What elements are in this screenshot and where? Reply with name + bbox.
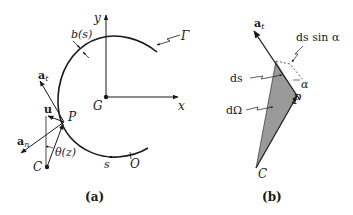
label-an: an bbox=[17, 135, 29, 149]
label-width: b(s) bbox=[71, 28, 92, 41]
label-C-b: C bbox=[258, 167, 267, 181]
label-x: x bbox=[178, 99, 185, 113]
label-at-b: at bbox=[254, 17, 265, 31]
theta-arc bbox=[46, 147, 53, 148]
label-G: G bbox=[93, 99, 103, 113]
label-s: s bbox=[104, 158, 110, 171]
label-theta: θ(z) bbox=[55, 146, 76, 159]
label-alpha: α bbox=[301, 78, 309, 91]
gamma-leader bbox=[157, 35, 180, 45]
panel-b: at ds sin α ds dΩ α P C (b) bbox=[226, 17, 340, 204]
label-P-b: P bbox=[292, 93, 302, 107]
label-P: P bbox=[67, 110, 77, 124]
leader-ds-sin bbox=[292, 46, 303, 62]
caption-b: (b) bbox=[262, 190, 282, 204]
label-C: C bbox=[33, 160, 42, 174]
label-gamma: Γ bbox=[180, 29, 190, 43]
label-ds-sin-alpha: ds sin α bbox=[296, 31, 340, 44]
figure-canvas: y x G Γ b(s) at u an P C θ(z) s O (a) at bbox=[0, 0, 353, 215]
label-dOmega: dΩ bbox=[226, 104, 242, 117]
unit-vector-u bbox=[48, 116, 64, 122]
caption-a: (a) bbox=[85, 190, 104, 204]
label-ds: ds bbox=[230, 72, 243, 85]
panel-a: y x G Γ b(s) at u an P C θ(z) s O (a) bbox=[17, 11, 190, 204]
width-arrow-outer bbox=[73, 41, 80, 48]
center-point-C bbox=[45, 165, 49, 169]
label-y: y bbox=[93, 11, 101, 25]
label-u: u bbox=[44, 103, 52, 116]
label-O: O bbox=[130, 157, 140, 171]
origin-point bbox=[104, 95, 108, 99]
label-at: at bbox=[38, 69, 49, 83]
width-arrow-inner bbox=[83, 52, 89, 58]
